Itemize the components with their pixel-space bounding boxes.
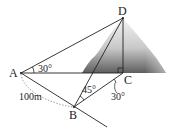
distance-label: 100m xyxy=(19,91,42,102)
mountain-shape xyxy=(82,18,166,73)
angle-label-B: 45° xyxy=(82,84,96,95)
label-A: A xyxy=(9,66,18,80)
label-C: C xyxy=(124,73,132,87)
label-D: D xyxy=(118,4,127,18)
angle-label-A: 30° xyxy=(38,63,52,74)
geometry-diagram: D A C B 30° 45° 30° 100m xyxy=(0,0,171,134)
label-B: B xyxy=(69,108,77,122)
angle-arc-A xyxy=(33,67,35,73)
angle-arc-B xyxy=(80,96,84,100)
point-A xyxy=(20,72,22,74)
angle-label-C: 30° xyxy=(111,91,125,102)
angle-arc-C xyxy=(114,79,116,83)
